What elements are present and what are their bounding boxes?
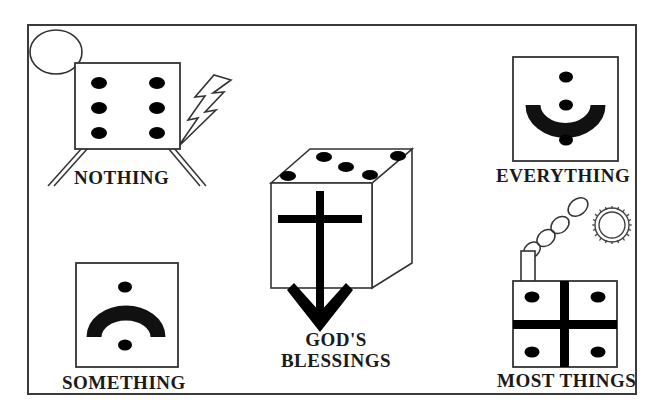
caption-gods-blessings-line1: GOD'S <box>266 330 406 351</box>
caption-nothing: NOTHING <box>74 168 169 189</box>
caption-gods-blessings-line2: BLESSINGS <box>266 351 406 372</box>
caption-gods-blessings: GOD'S BLESSINGS <box>266 330 406 371</box>
caption-everything: EVERYTHING <box>496 166 630 187</box>
figure-canvas: NOTHING SOMETHING EVERYTHING MOST THINGS… <box>0 0 664 419</box>
caption-most-things: MOST THINGS <box>497 371 636 392</box>
caption-something: SOMETHING <box>62 373 186 394</box>
